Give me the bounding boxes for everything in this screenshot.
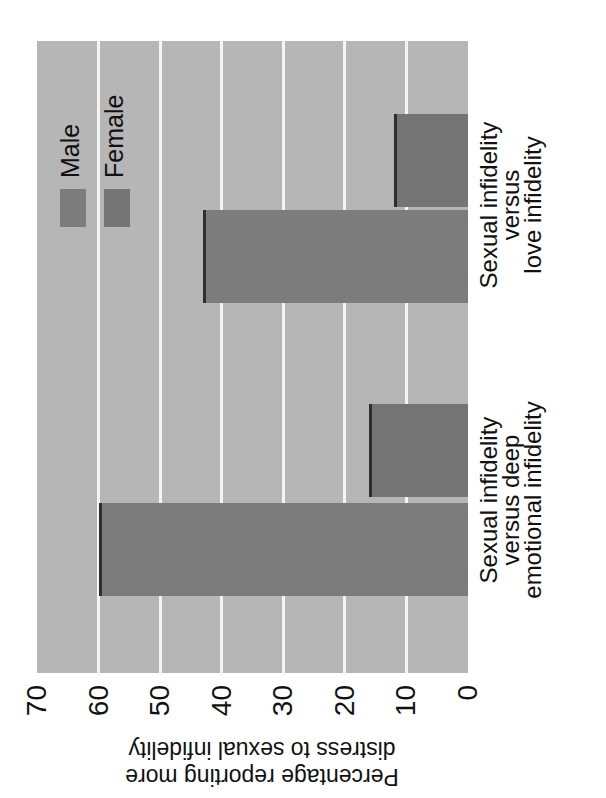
legend-label-female: Female bbox=[102, 95, 126, 178]
legend-swatch-male bbox=[60, 189, 86, 227]
category-label-line: love infidelity bbox=[522, 65, 544, 345]
legend-swatch-female bbox=[104, 189, 130, 227]
y-tick-label: 0 bbox=[454, 685, 482, 745]
y-axis-title-line2: distress to sexual infidelity bbox=[87, 736, 437, 763]
legend-label-male: Male bbox=[58, 124, 82, 178]
bar-female-1 bbox=[369, 404, 468, 497]
bar-male-2 bbox=[203, 210, 468, 303]
y-tick-label: 70 bbox=[23, 685, 51, 745]
y-axis-title: Percentage reporting more distress to se… bbox=[87, 736, 437, 790]
bar-male-1 bbox=[99, 503, 468, 596]
category-label-love: Sexual infidelity versus love infidelity bbox=[478, 65, 544, 345]
chart-stage: 010203040506070 Percentage reporting mor… bbox=[0, 0, 606, 798]
category-label-line: emotional infidelity bbox=[522, 360, 544, 640]
bar-female-2 bbox=[394, 114, 468, 207]
y-axis-title-line1: Percentage reporting more bbox=[87, 763, 437, 790]
category-label-deep-emotional: Sexual infidelity versus deep emotional … bbox=[478, 360, 544, 640]
